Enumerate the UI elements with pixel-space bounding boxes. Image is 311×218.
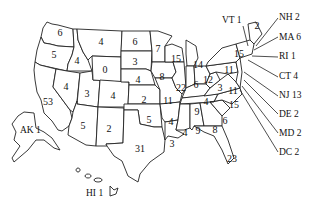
leader-VT <box>243 26 248 46</box>
callout-CT: CT 4 <box>279 71 298 81</box>
callout-RI: RI 1 <box>279 51 296 61</box>
label-CA: 53 <box>43 96 53 107</box>
label-AR: 4 <box>169 116 174 127</box>
label-TN: 9 <box>195 106 200 117</box>
label-VA: 11 <box>228 85 238 96</box>
label-SC: 6 <box>223 115 228 126</box>
label-OH: 12 <box>203 74 213 85</box>
leader-RI <box>252 56 278 57</box>
label-IL: 22 <box>176 82 186 93</box>
callout-NH: NH 2 <box>279 12 300 22</box>
leader-CT <box>248 60 278 77</box>
label-NM: 2 <box>107 123 112 134</box>
label-MT: 4 <box>99 36 104 47</box>
callout-VT: VT 1 <box>222 15 242 25</box>
label-IA: 8 <box>160 71 165 82</box>
label-WI: 15 <box>171 53 181 64</box>
leader-DC <box>240 90 278 152</box>
callout-DE: DE 2 <box>279 109 299 119</box>
label-NY: 15 <box>234 48 244 59</box>
label-NE: 4 <box>136 74 141 85</box>
label-TX: 31 <box>135 143 145 154</box>
label-NV: 4 <box>64 81 69 92</box>
label-AL: 9 <box>196 125 201 136</box>
label-ND: 6 <box>133 36 138 47</box>
leader-DE <box>244 80 278 114</box>
label-UT: 3 <box>85 88 90 99</box>
label-PA: 11 <box>224 64 234 75</box>
label-AZ: 5 <box>81 120 86 131</box>
label-WA: 6 <box>58 27 63 38</box>
label-KS: 2 <box>142 94 147 105</box>
label-IN: 6 <box>194 79 199 90</box>
label-NC: 15 <box>229 99 239 110</box>
callout-MA: MA 6 <box>279 32 301 42</box>
label-CO: 4 <box>111 90 116 101</box>
label-MS: 4 <box>183 127 188 138</box>
label-WY: 0 <box>103 64 108 75</box>
leader-NJ <box>244 72 278 96</box>
label-ID: 4 <box>75 55 80 66</box>
label-LA: 3 <box>170 138 175 149</box>
callout-NJ: NJ 13 <box>279 90 302 100</box>
callout-HI: HI 1 <box>86 188 103 198</box>
label-MI: 14 <box>193 59 203 70</box>
label-ME: 2 <box>255 20 260 31</box>
callout-AK: AK 1 <box>20 125 41 135</box>
label-MN: 7 <box>156 43 161 54</box>
label-MO: 11 <box>163 95 173 106</box>
label-WV: 3 <box>218 82 223 93</box>
label-SD: 3 <box>133 56 138 67</box>
label-OK: 5 <box>147 114 152 125</box>
label-KY: 4 <box>204 96 209 107</box>
leader-MD <box>242 86 278 133</box>
callout-DC: DC 2 <box>279 147 300 157</box>
label-GA: 8 <box>213 124 218 135</box>
label-OR: 5 <box>52 49 57 60</box>
label-FL: 23 <box>227 153 237 164</box>
callout-MD: MD 2 <box>279 128 302 138</box>
